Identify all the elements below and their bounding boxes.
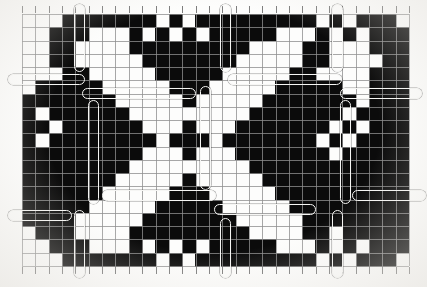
pattern-cell — [302, 213, 316, 227]
pattern-cell — [302, 14, 316, 28]
pattern-cell — [129, 41, 143, 55]
pattern-cell — [195, 67, 209, 81]
pattern-cell — [49, 107, 63, 121]
pattern-cell — [369, 239, 383, 253]
pattern-cell — [142, 41, 156, 55]
pattern-cell — [329, 253, 343, 267]
pattern-cell — [35, 213, 49, 227]
pattern-cell — [315, 186, 329, 200]
pattern-cell — [262, 133, 276, 147]
pattern-cell — [195, 186, 209, 200]
pattern-cell — [315, 239, 329, 253]
pattern-cell — [262, 14, 276, 28]
pattern-cell — [275, 173, 289, 187]
pattern-chart — [22, 14, 409, 266]
pattern-cell — [289, 160, 303, 174]
pattern-cell — [249, 14, 263, 28]
pattern-cell — [75, 200, 89, 214]
pattern-cell — [342, 226, 356, 240]
tick-mark-top — [49, 6, 50, 13]
pattern-cell — [62, 186, 76, 200]
pattern-cell — [235, 253, 249, 267]
pattern-cell — [222, 27, 236, 41]
pattern-cell — [289, 147, 303, 161]
tick-mark-bottom — [249, 267, 250, 274]
pattern-cell — [396, 173, 410, 187]
pattern-cell — [182, 147, 196, 161]
pattern-cell — [62, 41, 76, 55]
pattern-cell — [342, 160, 356, 174]
pattern-cell — [142, 54, 156, 68]
pattern-cell — [62, 147, 76, 161]
tick-mark-bottom — [222, 267, 223, 274]
pattern-cell — [62, 160, 76, 174]
tick-mark-top — [302, 6, 303, 13]
pattern-cell — [142, 226, 156, 240]
tick-mark-top — [276, 6, 277, 13]
pattern-cell — [315, 213, 329, 227]
pattern-cell — [396, 186, 410, 200]
tick-mark-bottom — [289, 267, 290, 274]
pattern-cell — [369, 94, 383, 108]
pattern-cell — [382, 186, 396, 200]
pattern-cell — [62, 120, 76, 134]
pattern-cell — [315, 27, 329, 41]
pattern-cell — [49, 239, 63, 253]
tick-mark-bottom — [22, 267, 23, 274]
tick-mark-bottom — [129, 267, 130, 274]
tick-mark-top — [102, 6, 103, 13]
pattern-cell — [115, 14, 129, 28]
pattern-cell — [369, 213, 383, 227]
tick-mark-bottom — [262, 267, 263, 274]
pattern-cell — [155, 41, 169, 55]
pattern-cell — [75, 186, 89, 200]
pattern-cell — [275, 120, 289, 134]
pattern-cell — [249, 160, 263, 174]
pattern-cell — [89, 80, 103, 94]
pattern-cell — [289, 94, 303, 108]
pattern-cell — [396, 133, 410, 147]
pattern-cell — [182, 133, 196, 147]
pattern-cell — [275, 107, 289, 121]
tick-mark-top — [289, 6, 290, 13]
chart-caption: Black-and-white square-grid weaving draf… — [0, 0, 1, 1]
pattern-cell — [329, 213, 343, 227]
pattern-cell — [249, 133, 263, 147]
pattern-cell — [262, 253, 276, 267]
tick-mark-bottom — [35, 267, 36, 274]
pattern-cell — [396, 239, 410, 253]
pattern-cell — [22, 160, 36, 174]
pattern-cell — [289, 200, 303, 214]
pattern-cell — [142, 14, 156, 28]
pattern-cell — [315, 160, 329, 174]
pattern-cell — [169, 54, 183, 68]
pattern-cell — [315, 226, 329, 240]
pattern-cell — [382, 67, 396, 81]
pattern-cell — [302, 160, 316, 174]
pattern-cell — [22, 200, 36, 214]
tick-mark-top — [329, 6, 330, 13]
pattern-cell — [75, 253, 89, 267]
pattern-cell — [142, 133, 156, 147]
pattern-cell — [35, 226, 49, 240]
pattern-cell — [369, 253, 383, 267]
pattern-cell — [62, 14, 76, 28]
pattern-cell — [75, 27, 89, 41]
pattern-cell — [89, 160, 103, 174]
pattern-cell — [369, 41, 383, 55]
tick-mark-bottom — [169, 267, 170, 274]
pattern-cell — [382, 213, 396, 227]
pattern-cell — [382, 200, 396, 214]
pattern-cell — [35, 120, 49, 134]
tick-mark-top — [316, 6, 317, 13]
tick-mark-top — [156, 6, 157, 13]
pattern-cell — [369, 226, 383, 240]
pattern-cell — [382, 107, 396, 121]
pattern-cell — [209, 253, 223, 267]
pattern-cell — [235, 133, 249, 147]
pattern-cell-layer — [22, 14, 409, 266]
pattern-cell — [182, 27, 196, 41]
pattern-cell — [302, 80, 316, 94]
pattern-cell — [89, 186, 103, 200]
pattern-cell — [102, 14, 116, 28]
